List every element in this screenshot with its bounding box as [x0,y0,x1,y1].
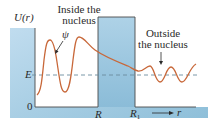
outer-radius-subscript: 1 [137,113,141,121]
psi-label: ψ [62,29,69,40]
outer-radius-label: R1 [130,108,140,121]
zero-label: 0 [27,101,33,112]
outside-nucleus-label: Outside the nucleus [132,28,194,50]
inside-label-line2: nucleus [48,15,110,26]
y-axis-label: U(r) [14,12,34,23]
radius-label: R [95,109,102,120]
outside-label-line2: the nucleus [132,39,194,50]
energy-label: E [25,69,32,80]
r-axis-label: r [177,107,181,118]
barrier-region [98,17,135,107]
outer-radius-letter: R [130,107,137,119]
inside-nucleus-label: Inside the nucleus [48,4,110,26]
